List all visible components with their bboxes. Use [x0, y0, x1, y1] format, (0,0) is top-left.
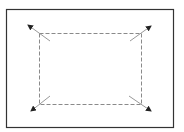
arrow-bottom-left-icon	[31, 96, 50, 111]
expand-arrows	[28, 25, 151, 111]
expand-diagram	[0, 0, 184, 132]
arrow-bottom-right-icon	[129, 96, 151, 111]
dashed-selection-rect	[40, 34, 142, 105]
